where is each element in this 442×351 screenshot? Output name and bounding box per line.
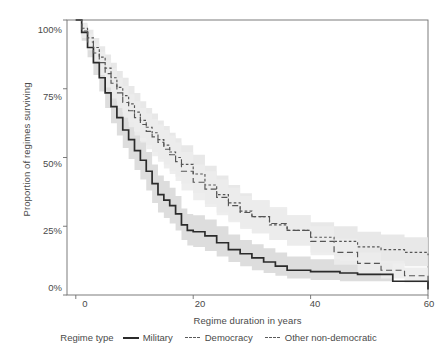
legend-label-democracy: Democracy xyxy=(205,332,253,343)
legend-key-solid-icon xyxy=(123,334,139,342)
legend-item-other-non-democratic[interactable]: Other non-democratic xyxy=(265,332,377,343)
x-tick-label-60: 60 xyxy=(409,298,442,309)
legend-key-dotted-icon xyxy=(185,334,201,342)
y-tick-label-0: 0% xyxy=(18,282,62,293)
y-tick-label-50: 50% xyxy=(18,158,62,169)
legend-label-other: Other non-democratic xyxy=(285,332,377,343)
x-tick-label-20: 20 xyxy=(180,298,220,309)
legend-item-military[interactable]: Military xyxy=(123,332,173,343)
survival-chart-figure: Proportion of regimes surviving Regime d… xyxy=(0,0,442,351)
y-tick-label-25: 25% xyxy=(18,225,62,236)
y-tick-label-75: 75% xyxy=(18,91,62,102)
legend-item-democracy[interactable]: Democracy xyxy=(185,332,253,343)
chart-legend: Regime type Military Democracy Other non… xyxy=(0,332,442,343)
x-axis-title: Regime duration in years xyxy=(67,315,428,326)
y-tick-label-100: 100% xyxy=(18,24,62,35)
legend-title: Regime type xyxy=(60,332,113,343)
legend-key-dashed-icon xyxy=(265,334,281,342)
x-tick-label-0: 0 xyxy=(65,298,105,309)
x-tick-label-40: 40 xyxy=(295,298,335,309)
y-axis-tick-labels: 100% 75% 50% 25% 0% xyxy=(14,0,62,351)
legend-label-military: Military xyxy=(143,332,173,343)
